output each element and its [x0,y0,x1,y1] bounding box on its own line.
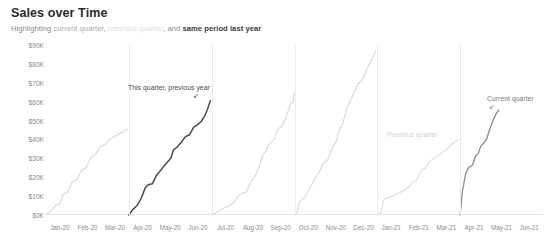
y-axis-tick: $0K [4,212,44,219]
quarter-gridline [377,45,378,215]
x-axis-tick: Apr-21 [465,224,484,231]
annotation-current-quarter: Current quarter [487,95,534,102]
subtitle-part-1: current quarter [53,24,103,33]
x-axis-tick: Jan-21 [381,224,400,231]
x-axis-tick: Jun-20 [188,224,207,231]
this-quarter-previous-year-arrow: ↙ [193,92,199,99]
y-axis-tick: $50K [4,117,44,124]
x-axis-tick: Mar-20 [105,224,125,231]
y-axis-tick: $40K [4,136,44,143]
y-axis-tick: $10K [4,193,44,200]
x-axis-tick: Apr-20 [133,224,152,231]
quarter-gridline [212,45,213,215]
y-axis: $90K$80K$70K$60K$50K$40K$30K$20K$10K$0K [0,45,44,215]
subtitle-part-3: previous quarter [108,24,163,33]
quarter-gridline [129,45,130,215]
chart-canvas: Sales over Time Highlighting current qua… [0,0,553,249]
quarter-gridline [460,45,461,215]
y-axis-tick: $70K [4,79,44,86]
subtitle-part-4: , and [163,24,182,33]
subtitle-part-0: Highlighting [11,24,53,33]
x-axis-tick: Sep-20 [271,224,291,231]
x-axis-tick: May-21 [491,224,512,231]
line-series [46,129,127,215]
line-series [295,51,376,215]
current-quarter-arrow: ↙ [489,103,495,110]
line-series [377,139,458,215]
line-series [460,110,499,215]
x-axis-tick: Jul-20 [217,224,234,231]
plot-area [46,45,543,215]
chart-subtitle: Highlighting current quarter, previous q… [11,24,261,33]
y-axis-tick: $80K [4,60,44,67]
x-axis-tick: Aug-20 [243,224,263,231]
y-axis-tick: $20K [4,174,44,181]
x-axis-tick: Mar-21 [436,224,456,231]
line-series [212,93,295,215]
x-axis-tick: Oct-20 [299,224,318,231]
annotation-previous-quarter: Previous quarter [387,131,438,138]
x-axis-tick: Jan-20 [50,224,69,231]
x-axis-tick: Feb-21 [409,224,429,231]
x-axis-tick: Dec-20 [353,224,373,231]
x-axis-tick: Nov-20 [326,224,346,231]
x-axis-tick: May-20 [160,224,181,231]
subtitle-part-5: same period last year [183,24,262,33]
x-axis-tick: Jun-21 [520,224,539,231]
chart-title: Sales over Time [11,6,107,20]
y-axis-tick: $30K [4,155,44,162]
y-axis-tick: $90K [4,42,44,49]
line-series [129,101,210,215]
quarter-gridline [295,45,296,215]
y-axis-tick: $60K [4,98,44,105]
annotation-this-quarter-previous-year: This quarter, previous year [128,84,210,91]
x-axis-tick: Feb-20 [77,224,97,231]
x-axis: Jan-20Feb-20Mar-20Apr-20May-20Jun-20Jul-… [46,224,543,238]
